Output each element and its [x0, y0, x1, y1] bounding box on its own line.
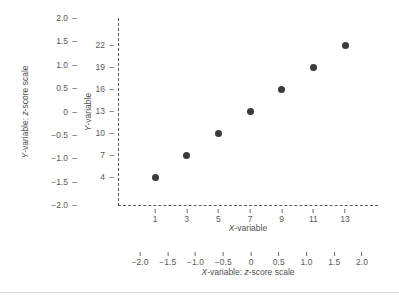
y-axis-zscore-title-mid: -variable: [20, 116, 30, 153]
data-point [310, 64, 317, 71]
y-zscore-tick-label: −2.0– [51, 201, 77, 210]
y-tick-label: 22– [96, 41, 114, 50]
y-zscore-tick-label: 0.5– [56, 84, 77, 93]
data-point [152, 174, 159, 181]
x-tick-label: 7 [248, 209, 253, 224]
y-tick-label: 16– [96, 85, 114, 94]
y-zscore-tick-label: −0.5– [51, 131, 77, 140]
y-tick-label: 7– [100, 151, 114, 160]
x-zscore-tick-label: −2.0 [132, 252, 149, 267]
x-axis-title-suffix: -variable [235, 223, 268, 233]
y-axis-title-variable: Y [83, 125, 93, 131]
y-zscore-tick-label: 1.5– [56, 37, 77, 46]
y-axis-zscore-title: Y-variable: z-score scale [21, 65, 30, 158]
y-tick-label: 13– [96, 107, 114, 116]
y-zscore-tick-label: −1.5– [51, 177, 77, 186]
x-zscore-tick-label: −1.0 [187, 252, 204, 267]
x-zscore-tick-label: 0 [249, 252, 254, 267]
footer-divider [0, 292, 399, 293]
data-point [278, 86, 285, 93]
y-axis-title: Y-variable [84, 93, 93, 131]
x-axis-zscore-title-suffix: -score scale [249, 267, 295, 277]
x-zscore-tick-label: 2.0 [356, 252, 368, 267]
scatter-plot-figure: 2.0–1.5–1.0–0.5–0–−0.5–−1.0–−1.5–−2.0– 4… [0, 0, 399, 299]
y-zscore-tick-label: 2.0– [56, 14, 77, 23]
x-zscore-tick-label: −0.5 [215, 252, 232, 267]
y-tick-label: 19– [96, 63, 114, 72]
x-zscore-tick-label: −1.5 [159, 252, 176, 267]
y-axis-zscore-title-z: z [20, 111, 30, 115]
y-axis-zscore-title-variable: Y [20, 153, 30, 159]
x-axis-line [118, 205, 378, 206]
y-axis-zscore-title-suffix: -score scale [20, 65, 30, 111]
x-tick-label: 13 [340, 209, 349, 224]
y-axis-line [118, 18, 119, 206]
y-tick-label: 10– [96, 129, 114, 138]
x-axis-zscore-title: X-variable: z-score scale [201, 268, 294, 277]
x-axis-zscore-title-mid: -variable: [207, 267, 244, 277]
data-point [342, 42, 349, 49]
y-zscore-tick-label: 0– [63, 107, 77, 116]
y-tick-label: 4– [100, 173, 114, 182]
x-axis-title: X-variable [229, 224, 267, 233]
x-tick-label: 3 [184, 209, 189, 224]
x-zscore-tick-label: 1.0 [301, 252, 313, 267]
y-zscore-tick-label: 1.0– [56, 61, 77, 70]
x-zscore-tick-label: 1.5 [328, 252, 340, 267]
y-zscore-tick-label: −1.0– [51, 154, 77, 163]
x-tick-label: 1 [153, 209, 158, 224]
x-tick-label: 9 [279, 209, 284, 224]
data-point [215, 130, 222, 137]
x-zscore-tick-label: 0.5 [273, 252, 285, 267]
x-tick-label: 5 [216, 209, 221, 224]
data-point [247, 108, 254, 115]
y-axis-title-suffix: -variable [83, 93, 93, 126]
x-tick-label: 11 [309, 209, 318, 224]
data-point [183, 152, 190, 159]
